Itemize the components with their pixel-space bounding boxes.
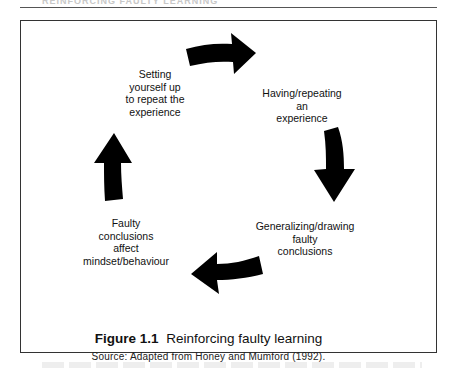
node-line: Faulty — [66, 217, 186, 230]
running-head: REINFORCING FAULTY LEARNING — [42, 0, 218, 6]
arrow-left-icon — [189, 250, 265, 296]
node-line: to repeat the — [100, 93, 210, 106]
figure-caption-source: Source: Adapted from Honey and Mumford (… — [1, 351, 416, 362]
node-line: experience — [242, 112, 362, 125]
arrow-down-icon — [312, 127, 356, 203]
node-line: affect — [66, 242, 186, 255]
arrow-right-icon — [184, 33, 258, 75]
figure-number: Figure 1.1 — [95, 331, 159, 346]
node-having-repeating: Having/repeating an experience — [242, 87, 362, 125]
body-text-ghost — [42, 362, 422, 368]
node-line: faulty — [235, 233, 375, 246]
figure-frame: Setting yourself up to repeat the experi… — [20, 20, 437, 353]
top-rule — [20, 7, 437, 8]
node-line: Having/repeating — [242, 87, 362, 100]
node-line: experience — [100, 106, 210, 119]
node-line: conclusions — [66, 230, 186, 243]
arrow-up-icon — [93, 133, 133, 203]
node-faulty-conclusions: Faulty conclusions affect mindset/behavi… — [66, 217, 186, 267]
node-line: an — [242, 100, 362, 113]
figure-title: Reinforcing faulty learning — [166, 331, 322, 346]
node-line: mindset/behaviour — [66, 255, 186, 268]
node-line: yourself up — [100, 81, 210, 94]
figure-caption-title: Figure 1.1 Reinforcing faulty learning — [1, 331, 416, 346]
node-line: Generalizing/drawing — [235, 220, 375, 233]
